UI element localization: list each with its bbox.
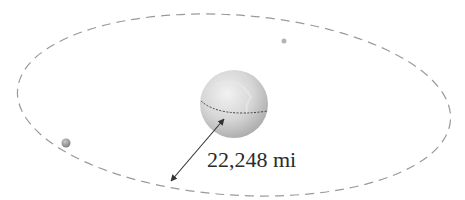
satellite-left-icon <box>62 139 71 148</box>
planet <box>200 70 268 138</box>
satellite-top-icon <box>282 39 287 44</box>
distance-label: 22,248 mi <box>207 147 296 173</box>
